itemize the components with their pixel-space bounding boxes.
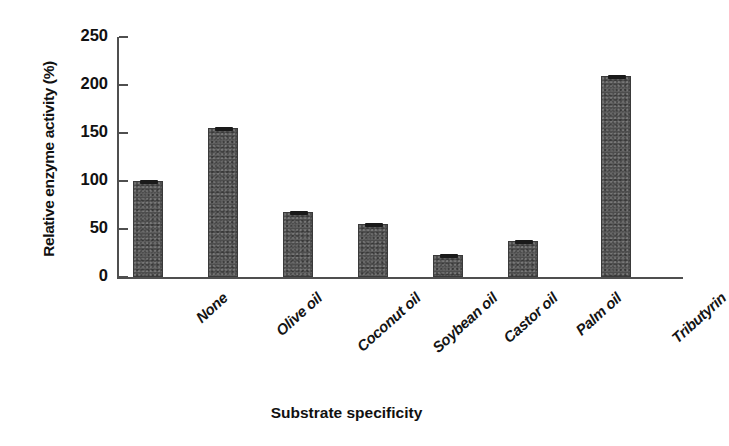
x-tick-label-palm-oil: Palm oil [572, 289, 624, 339]
x-tick-label-none: None [192, 289, 230, 326]
x-tick-label-tributyrin: Tributyrin [668, 289, 729, 346]
x-axis-title: Substrate specificity [0, 404, 693, 422]
bar-coconut-oil[interactable] [283, 212, 313, 277]
bar-cap-icon [440, 254, 458, 258]
bars-layer [117, 37, 683, 277]
bar-cap-icon [608, 75, 626, 79]
bar-olive-oil[interactable] [208, 128, 238, 277]
y-tick-label-50: 50 [90, 217, 108, 237]
x-tick-label-olive-oil: Olive oil [272, 289, 325, 339]
bar-palm-oil[interactable] [508, 241, 538, 277]
y-tick-label-0: 0 [99, 265, 108, 285]
y-tick-label-100: 100 [80, 169, 108, 189]
y-axis-title: Relative enzyme activity (%) [40, 34, 58, 284]
bar-cap-icon [365, 223, 383, 227]
bar-soybean-oil[interactable] [358, 224, 388, 277]
plot-area: 0 50 100 150 200 250 [117, 37, 683, 277]
x-tick-label-castor-oil: Castor oil [500, 289, 561, 346]
bar-none[interactable] [133, 181, 163, 277]
x-tick-label-soybean-oil: Soybean oil [429, 289, 500, 356]
y-tick-label-200: 200 [80, 73, 108, 93]
bar-cap-icon [515, 240, 533, 244]
bar-cap-icon [140, 180, 158, 184]
bar-cap-icon [215, 127, 233, 131]
x-axis-labels: None Olive oil Coconut oil Soybean oil C… [117, 279, 683, 384]
bar-castor-oil[interactable] [433, 255, 463, 277]
bar-cap-icon [290, 211, 308, 215]
bar-tributyrin[interactable] [601, 76, 631, 277]
x-tick-label-coconut-oil: Coconut oil [353, 289, 423, 355]
y-tick-label-250: 250 [80, 25, 108, 45]
y-tick-label-150: 150 [80, 121, 108, 141]
